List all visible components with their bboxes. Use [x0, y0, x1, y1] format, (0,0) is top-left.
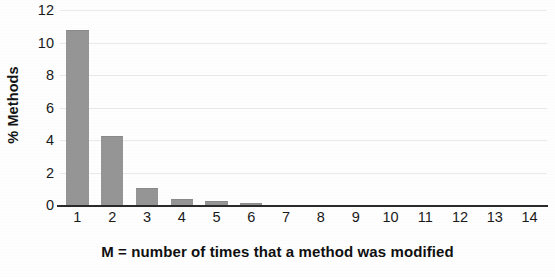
x-tick-label: 8 — [317, 209, 325, 225]
x-tick-label: 2 — [108, 209, 116, 225]
bar-slot — [345, 10, 367, 205]
x-tick-label: 9 — [352, 209, 360, 225]
bar — [101, 136, 123, 205]
x-tick-label: 6 — [247, 209, 255, 225]
x-tick-label: 10 — [382, 209, 398, 225]
y-tick-label: 0 — [46, 197, 54, 213]
x-tick-label: 1 — [73, 209, 81, 225]
y-axis-title-container: % Methods — [0, 0, 26, 210]
bar-slot — [240, 10, 262, 205]
y-tick-label: 8 — [46, 67, 54, 83]
bar-slot — [171, 10, 193, 205]
y-tick-label: 6 — [46, 100, 54, 116]
bar-slot — [310, 10, 332, 205]
bar-slot — [275, 10, 297, 205]
x-tick-label: 7 — [282, 209, 290, 225]
bar-slot — [379, 10, 401, 205]
x-tick-label: 11 — [418, 209, 433, 225]
x-tick-label: 5 — [212, 209, 220, 225]
y-axis-tick-labels: 121086420 — [26, 0, 58, 212]
bar — [66, 30, 88, 206]
y-tick-label: 2 — [46, 165, 54, 181]
bar-series — [60, 10, 547, 205]
y-tick-label: 12 — [38, 2, 54, 18]
y-tick-label: 10 — [38, 35, 54, 51]
x-tick-label: 12 — [452, 209, 468, 225]
x-axis-line — [57, 205, 548, 207]
x-tick-label: 13 — [487, 209, 503, 225]
bar-slot — [449, 10, 471, 205]
bar-slot — [414, 10, 436, 205]
plot-area — [60, 10, 547, 205]
x-tick-label: 4 — [178, 209, 186, 225]
bar — [136, 188, 158, 205]
x-axis-title: M = number of times that a method was mo… — [0, 243, 555, 260]
bar-slot — [136, 10, 158, 205]
bar-slot — [101, 10, 123, 205]
x-axis-tick-labels: 1234567891011121314 — [60, 209, 547, 233]
bar-slot — [484, 10, 506, 205]
bar-slot — [518, 10, 540, 205]
bar-chart-figure: % Methods 121086420 1234567891011121314 … — [0, 0, 555, 277]
bar-slot — [205, 10, 227, 205]
x-tick-label: 3 — [143, 209, 151, 225]
y-tick-label: 4 — [46, 132, 54, 148]
y-axis-title: % Methods — [5, 66, 21, 143]
bar-slot — [66, 10, 88, 205]
x-tick-label: 14 — [522, 209, 538, 225]
